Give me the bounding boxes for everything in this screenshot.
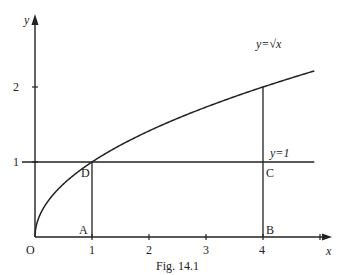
y-tick-label-1: 1: [13, 155, 19, 169]
y-axis-arrow-icon: [32, 14, 39, 25]
figure-canvas: y x O 1 2 3 4 1 2 y=√x y=1 A B C D Fig. …: [0, 0, 347, 275]
x-tick-label-1: 1: [89, 243, 95, 257]
point-label-C: C: [266, 166, 274, 180]
x-axis-label: x: [325, 244, 332, 258]
y-axis-label: y: [23, 13, 30, 27]
x-tick-label-2: 2: [146, 243, 152, 257]
y-tick-label-2: 2: [13, 80, 19, 94]
x-tick-label-4: 4: [259, 243, 265, 257]
point-label-A: A: [79, 223, 88, 237]
point-label-D: D: [81, 166, 90, 180]
x-axis-arrow-icon: [322, 234, 332, 241]
curve-label: y=√x: [255, 37, 282, 51]
x-tick-label-3: 3: [203, 243, 209, 257]
origin-label: O: [26, 243, 35, 257]
point-label-B: B: [266, 223, 274, 237]
line-label: y=1: [269, 146, 289, 160]
figure-caption: Fig. 14.1: [156, 259, 199, 273]
